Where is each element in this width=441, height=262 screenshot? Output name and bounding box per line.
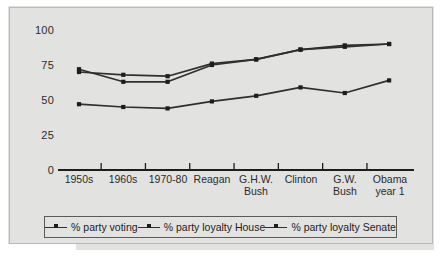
data-point-marker xyxy=(298,85,302,89)
series-line-party-loyalty-house xyxy=(79,44,389,76)
data-point-marker xyxy=(254,57,258,61)
legend-marker-icon xyxy=(265,223,287,232)
data-point-marker xyxy=(77,67,81,71)
data-point-marker xyxy=(254,94,258,98)
series-line-party-voting xyxy=(79,80,389,108)
x-axis-label-1960s: 1960s xyxy=(101,174,145,186)
legend-label-party-loyalty-senate: % party loyalty Senate xyxy=(291,221,395,233)
data-point-marker xyxy=(343,91,347,95)
x-axis-label-1970-80: 1970-80 xyxy=(145,174,191,186)
series-line-party-loyalty-senate xyxy=(79,44,389,82)
data-point-marker xyxy=(210,99,214,103)
x-axis-label-gw-bush: G.W. Bush xyxy=(323,174,367,197)
x-axis-label-1950s: 1950s xyxy=(57,174,101,186)
data-point-marker xyxy=(121,105,125,109)
data-point-marker xyxy=(166,74,170,78)
x-axis-label-obama-year-1: Obama year 1 xyxy=(366,174,414,197)
legend-label-party-voting: % party voting xyxy=(71,221,138,233)
data-point-marker xyxy=(166,80,170,84)
data-point-marker xyxy=(77,102,81,106)
legend-marker-icon xyxy=(138,223,160,232)
data-point-marker xyxy=(387,78,391,82)
chart-legend: % party voting % party loyalty House % p… xyxy=(44,216,397,238)
legend-item-party-loyalty-house: % party loyalty House xyxy=(138,221,266,233)
x-axis-label-ghw-bush: G.H.W. Bush xyxy=(233,174,279,197)
data-point-marker xyxy=(210,63,214,67)
x-axis-label-reagan: Reagan xyxy=(190,174,234,186)
x-axis-label-clinton: Clinton xyxy=(278,174,324,186)
data-point-marker xyxy=(298,48,302,52)
data-point-marker xyxy=(166,106,170,110)
legend-marker-icon xyxy=(45,223,67,232)
legend-label-party-loyalty-house: % party loyalty House xyxy=(164,221,266,233)
legend-item-party-voting: % party voting xyxy=(45,221,138,233)
data-point-marker xyxy=(121,80,125,84)
data-point-marker xyxy=(121,73,125,77)
chart-figure: 100 75 50 25 0 1950s 1960s 1970-80 Reaga… xyxy=(0,0,441,262)
data-point-marker xyxy=(387,42,391,46)
data-point-marker xyxy=(343,43,347,47)
legend-item-party-loyalty-senate: % party loyalty Senate xyxy=(265,221,395,233)
series-layer xyxy=(77,42,391,111)
